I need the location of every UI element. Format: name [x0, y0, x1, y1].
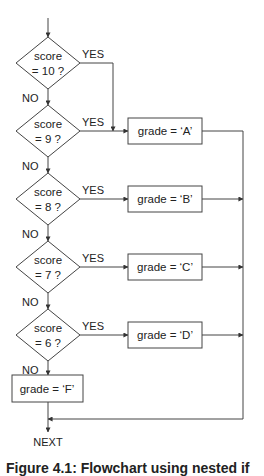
decision-text: = 7 ?: [35, 269, 61, 281]
decision-text: = 9 ?: [35, 133, 61, 145]
decision-text: = 10 ?: [32, 65, 64, 77]
decision-text: = 6 ?: [35, 337, 61, 349]
process-text: grade = ‘B’: [137, 193, 192, 205]
decision-diamond: [16, 309, 80, 361]
figure-caption: Figure 4.1: Flowchart using nested if: [6, 460, 249, 476]
process-text: grade = ‘F’: [20, 383, 75, 395]
yes-label: YES: [82, 116, 104, 128]
process-text: grade = ‘D’: [137, 329, 193, 341]
decision-text: score: [34, 50, 62, 62]
no-label: NO: [22, 92, 39, 104]
process-text: grade = ‘A’: [138, 125, 192, 137]
decision-text: score: [34, 322, 62, 334]
yes-label: YES: [82, 184, 104, 196]
yes-label: YES: [82, 320, 104, 332]
no-label: NO: [22, 160, 39, 172]
no-label: NO: [22, 364, 39, 376]
process-text: grade = ‘C’: [137, 261, 193, 273]
yes-label: YES: [82, 252, 104, 264]
no-label: NO: [22, 296, 39, 308]
no-label: NO: [22, 228, 39, 240]
decision-text: score: [34, 254, 62, 266]
exit-label: NEXT: [33, 436, 63, 448]
decision-text: score: [34, 186, 62, 198]
decision-diamond: [16, 105, 80, 157]
decision-diamond: [16, 37, 80, 89]
decision-diamond: [16, 241, 80, 293]
decision-text: score: [34, 118, 62, 130]
yes-label: YES: [82, 48, 104, 60]
decision-text: = 8 ?: [35, 201, 61, 213]
decision-diamond: [16, 173, 80, 225]
